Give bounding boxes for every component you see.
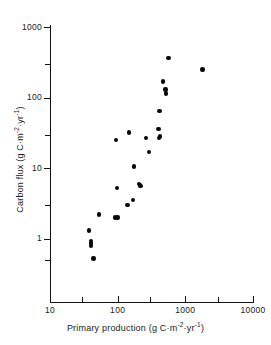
data-point <box>156 127 160 131</box>
data-point <box>114 138 118 142</box>
data-point <box>87 228 91 232</box>
data-point <box>157 109 161 113</box>
data-point <box>132 164 136 168</box>
y-axis-tick-label: 1000 <box>22 23 42 32</box>
x-axis-title: Primary production (g C·m-2·yr-1) <box>0 324 271 333</box>
data-point <box>131 198 135 202</box>
data-point <box>89 244 93 248</box>
x-axis-tick-label: 100 <box>110 306 125 315</box>
x-axis-tick-label: 1000 <box>175 306 195 315</box>
data-point <box>91 256 95 260</box>
scatter-plot-figure: Primary production (g C·m-2·yr-1) Carbon… <box>0 0 271 345</box>
plot-data-area <box>50 25 253 303</box>
data-point <box>97 212 101 216</box>
x-axis-tick-label: 10000 <box>240 306 265 315</box>
data-point <box>166 56 170 60</box>
data-point <box>158 134 162 138</box>
y-axis-tick-label: 100 <box>27 93 42 102</box>
data-point <box>161 79 165 83</box>
data-point <box>127 130 131 134</box>
data-point <box>164 91 168 95</box>
y-axis-title: Carbon flux (g C·m-2·yr-1) <box>16 60 25 260</box>
data-point <box>200 67 204 71</box>
data-point <box>115 186 119 190</box>
data-point <box>115 215 119 219</box>
data-point <box>147 150 151 154</box>
x-axis-major-tick <box>253 296 254 303</box>
x-axis-tick-label: 10 <box>45 306 55 315</box>
data-point <box>144 136 148 140</box>
y-axis-tick-label: 10 <box>32 164 42 173</box>
data-point <box>125 203 129 207</box>
y-axis-tick-label: 1 <box>37 234 42 243</box>
data-point <box>138 184 142 188</box>
